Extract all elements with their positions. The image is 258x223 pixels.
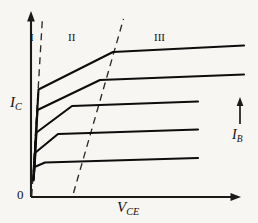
ib-arrow-label: IB [232,128,243,142]
ib-curve-2 [34,130,199,181]
region-label-iii: III [154,32,165,43]
ib-curve-3 [34,102,199,180]
y-axis-label-sub: C [15,101,22,112]
ib-label-sub: B [237,134,243,144]
plot-area [0,0,258,223]
ib-curve-1 [34,158,199,181]
x-axis-label: VCE [117,200,139,215]
ib-label-main: I [232,127,237,142]
x-axis-label-sub: CE [126,206,139,217]
x-axis-label-main: V [117,199,126,215]
origin-label: 0 [17,188,24,201]
region-label-ii: II [68,32,75,43]
transistor-characteristics-figure: IC VCE IB 0 I II III [0,0,258,223]
region-label-i: I [30,32,34,43]
y-axis-label: IC [10,95,22,110]
ib-increase-arrow [237,97,244,124]
